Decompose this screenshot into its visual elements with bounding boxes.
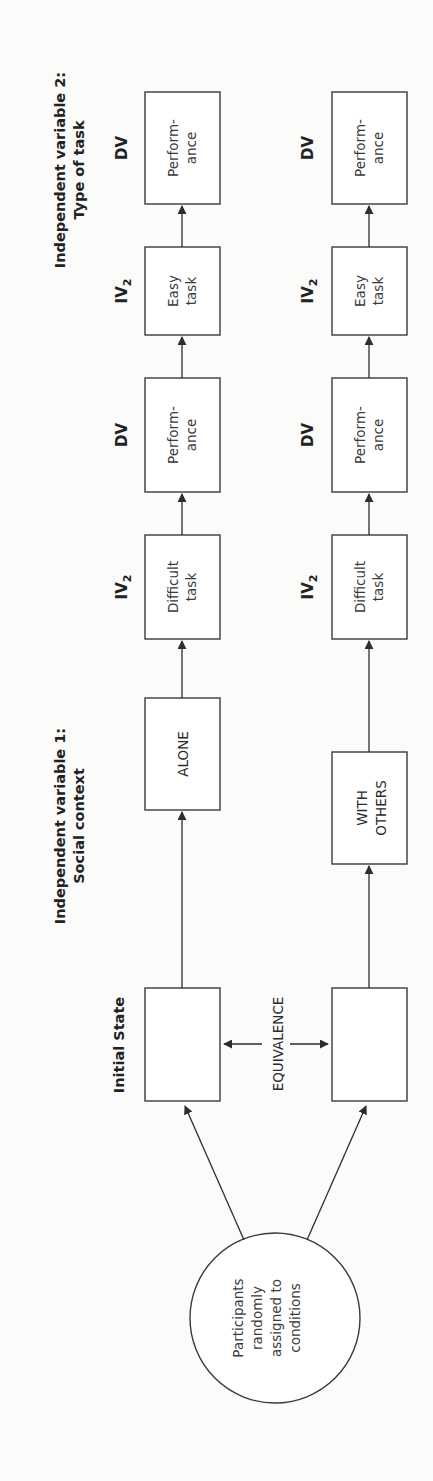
tag-dv: DV [299,136,317,160]
step-text-line1: Perform- [165,406,181,464]
participants-text-line1: Participants [230,1278,246,1357]
step-text-line1: Easy [165,275,181,307]
step-text-line2: task [183,277,199,306]
heading-iv1-line1: Independent variable 1: [52,728,68,924]
tag-dv: DV [299,423,317,447]
row-alone: ALONE Difficult task IV2 Perform- ance D… [113,92,220,1101]
heading-iv1: Independent variable 1: Social context [52,728,87,924]
heading-iv2-line2: Type of task [71,120,87,220]
heading-initial-state: Initial State [111,997,127,1093]
step-text-line1: Perform- [352,406,368,464]
heading-iv1-line2: Social context [71,768,87,884]
tag-dv: DV [113,136,131,160]
step-text-line1: Easy [352,275,368,307]
heading-iv2: Independent variable 2: Type of task [52,72,87,268]
step-text-line1: Perform- [352,119,368,177]
step-text-line1: Difficult [352,561,368,613]
condition-label-alone: ALONE [175,731,191,777]
equivalence-label: EQUIVALENCE [270,997,286,1092]
tag-iv2: IV2 [113,279,134,304]
step-text-line2: task [183,573,199,602]
initial-state-box-with-others [332,988,407,1101]
step-text-line2: task [370,573,386,602]
step-text-line2: task [370,277,386,306]
condition-label-others: OTHERS [373,780,389,836]
participants-text-line4: conditions [287,1283,303,1352]
tag-iv2: IV2 [113,575,134,600]
initial-state-box-alone [145,988,220,1101]
condition-label-with: WITH [354,790,370,826]
arrow-participants-to-with-others [307,1106,366,1240]
step-text-line1: Perform- [165,119,181,177]
step-text-line2: ance [183,132,199,165]
equivalence: EQUIVALENCE [224,997,328,1092]
tag-iv2: IV2 [299,279,320,304]
tag-dv: DV [113,423,131,447]
participants-text-line3: assigned to [268,1279,284,1357]
participants-node: Participants randomly assigned to condit… [185,1106,366,1403]
row-with-others: WITH OTHERS Difficult task IV2 Perform- … [299,92,407,1101]
experimental-design-diagram: Independent variable 2: Type of task Ind… [0,0,433,1481]
tag-iv2: IV2 [299,575,320,600]
step-text-line2: ance [370,419,386,452]
step-text-line1: Difficult [165,561,181,613]
step-text-line2: ance [370,132,386,165]
heading-iv2-line1: Independent variable 2: [52,72,68,268]
participants-text-line2: randomly [249,1286,265,1350]
arrow-participants-to-alone [185,1106,244,1240]
step-text-line2: ance [183,419,199,452]
